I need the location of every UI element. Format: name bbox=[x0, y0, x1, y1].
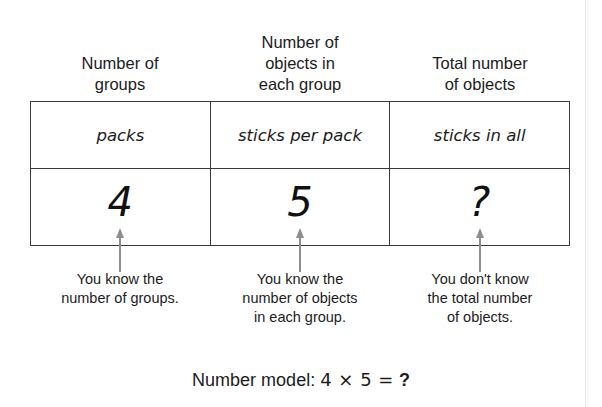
column-header-groups: Number of groups bbox=[30, 0, 210, 101]
caption-total-objects: You don't know the total number of objec… bbox=[390, 270, 570, 327]
column-header-line: Total number bbox=[432, 53, 527, 74]
unit-label: sticks in all bbox=[434, 126, 526, 145]
caption-line: of objects. bbox=[394, 308, 566, 327]
caption-groups: You know the number of groups. bbox=[30, 270, 210, 327]
column-header-line: objects in bbox=[265, 53, 335, 74]
caption-line: You don't know bbox=[394, 270, 566, 289]
column-header-total-objects: Total number of objects bbox=[390, 0, 570, 101]
table-cell-unit-packs: packs bbox=[31, 102, 210, 168]
column-header-line: Number of bbox=[261, 32, 338, 53]
caption-arrows bbox=[30, 228, 570, 272]
worksheet-page: Number of groups Number of objects in ea… bbox=[0, 0, 602, 407]
value-number: 4 bbox=[108, 182, 133, 222]
arrow-slot bbox=[210, 228, 390, 272]
arrow-up-icon bbox=[476, 228, 485, 272]
caption-line: You know the bbox=[34, 270, 206, 289]
situation-diagram-table: packs sticks per pack sticks in all 4 5 … bbox=[30, 101, 570, 246]
caption-line: number of objects bbox=[214, 289, 386, 308]
arrow-up-icon bbox=[296, 228, 305, 272]
number-model-answer: ? bbox=[399, 370, 410, 390]
column-header-line: Number of bbox=[81, 53, 158, 74]
number-model: Number model: 4 × 5 = ? bbox=[0, 368, 602, 392]
table-cell-unit-sticks-in-all: sticks in all bbox=[389, 102, 569, 168]
caption-line: in each group. bbox=[214, 308, 386, 327]
number-model-label: Number model: bbox=[192, 370, 315, 390]
caption-line: You know the bbox=[214, 270, 386, 289]
unit-label: sticks per pack bbox=[238, 126, 362, 145]
column-headers: Number of groups Number of objects in ea… bbox=[30, 0, 570, 101]
column-header-line: each group bbox=[259, 74, 342, 95]
arrow-up-icon bbox=[116, 228, 125, 272]
page-edge-shadow bbox=[587, 0, 588, 407]
caption-line: number of groups. bbox=[34, 289, 206, 308]
column-header-line: of objects bbox=[445, 74, 516, 95]
arrow-shaft bbox=[299, 235, 301, 272]
unit-label: packs bbox=[96, 126, 144, 145]
arrow-slot bbox=[390, 228, 570, 272]
explanatory-captions: You know the number of groups. You know … bbox=[30, 270, 570, 327]
column-header-objects-in-each-group: Number of objects in each group bbox=[210, 0, 390, 101]
arrow-slot bbox=[30, 228, 210, 272]
arrow-shaft bbox=[119, 235, 121, 272]
caption-objects-per-group: You know the number of objects in each g… bbox=[210, 270, 390, 327]
value-unknown-question-mark: ? bbox=[469, 182, 490, 222]
column-header-line: groups bbox=[95, 74, 145, 95]
page-edge-line bbox=[585, 0, 586, 407]
table-cell-unit-sticks-per-pack: sticks per pack bbox=[210, 102, 390, 168]
number-model-expression: 4 × 5 = bbox=[320, 369, 394, 390]
value-number: 5 bbox=[287, 182, 312, 222]
caption-line: the total number bbox=[394, 289, 566, 308]
arrow-shaft bbox=[479, 235, 481, 272]
table-row-unit-labels: packs sticks per pack sticks in all bbox=[31, 102, 569, 168]
